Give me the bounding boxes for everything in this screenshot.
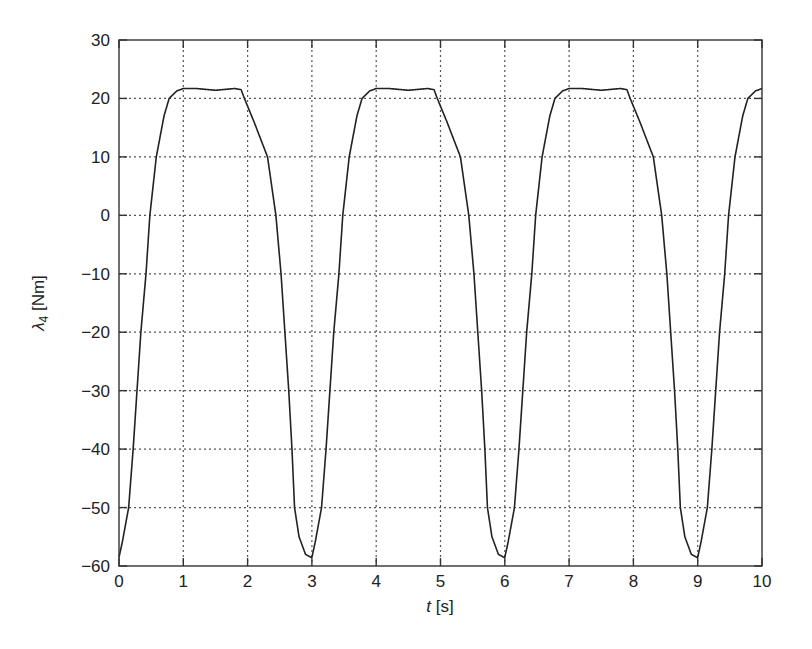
x-tick-label: 9: [693, 572, 702, 591]
y-tick-label: 0: [101, 206, 110, 225]
y-tick-label: −30: [81, 382, 110, 401]
plot-frame: [119, 40, 762, 566]
y-tick-label: 20: [91, 89, 110, 108]
y-tick-label: −40: [81, 440, 110, 459]
x-tick-label: 1: [179, 572, 188, 591]
y-tick-labels: −60−50−40−30−20−100102030: [81, 31, 110, 576]
x-tick-label: 2: [243, 572, 252, 591]
axis-ticks: [119, 40, 762, 566]
grid-lines: [119, 40, 762, 566]
y-tick-label: −20: [81, 323, 110, 342]
x-tick-label: 4: [371, 572, 380, 591]
x-tick-label: 3: [307, 572, 316, 591]
y-axis-label: λ4 [Nm]: [29, 275, 51, 332]
x-tick-labels: 012345678910: [114, 572, 771, 591]
line-chart: 012345678910 −60−50−40−30−20−100102030 t…: [0, 0, 812, 649]
y-tick-label: −60: [81, 557, 110, 576]
x-tick-label: 6: [500, 572, 509, 591]
lambda4-curve: [119, 89, 762, 558]
x-tick-label: 10: [753, 572, 772, 591]
y-tick-label: −50: [81, 499, 110, 518]
y-tick-label: −10: [81, 265, 110, 284]
y-tick-label: 30: [91, 31, 110, 50]
x-tick-label: 0: [114, 572, 123, 591]
y-tick-label: 10: [91, 148, 110, 167]
x-tick-label: 5: [436, 572, 445, 591]
x-tick-label: 7: [564, 572, 573, 591]
x-axis-label: t [s]: [426, 597, 453, 616]
x-tick-label: 8: [629, 572, 638, 591]
